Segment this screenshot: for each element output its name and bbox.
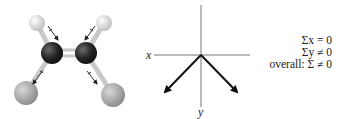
atom-c-right <box>75 42 97 64</box>
summary-equations: Σx = 0 Σy ≠ 0 overall: Σ ≠ 0 <box>269 34 332 70</box>
overall-sum-equation: overall: Σ ≠ 0 <box>269 58 332 70</box>
atom-h-right <box>96 15 112 31</box>
atom-cl-right <box>101 83 125 107</box>
dipole-diagram: x y Σx = 0 Σy ≠ 0 overall: Σ ≠ 0 <box>0 0 343 119</box>
atom-c-left <box>41 42 63 64</box>
atom-cl-left <box>14 81 38 105</box>
vector-right <box>201 55 237 92</box>
vector-axes: x y <box>145 5 250 119</box>
molecule-model <box>14 15 125 107</box>
x-axis-label: x <box>145 48 152 62</box>
atom-h-left <box>29 15 45 31</box>
bonds <box>26 23 113 95</box>
vector-left <box>165 55 201 92</box>
y-axis-label: y <box>197 105 204 119</box>
sum-x-equation: Σx = 0 <box>302 34 333 46</box>
